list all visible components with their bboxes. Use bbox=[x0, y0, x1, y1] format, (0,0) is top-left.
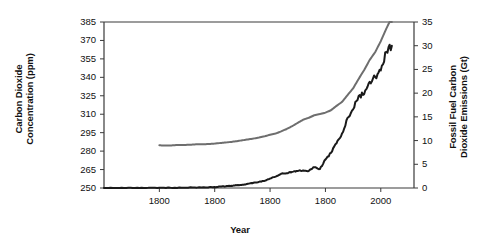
chart-figure: Carbon DioxideConcentration (ppm) Fossil… bbox=[0, 0, 488, 251]
y-tick-label-right: 10 bbox=[422, 135, 456, 146]
y-tick-label-left: 325 bbox=[62, 90, 96, 101]
axis-ticks bbox=[100, 22, 418, 192]
y-tick-label-left: 310 bbox=[62, 108, 96, 119]
plot-frame bbox=[104, 22, 414, 188]
x-tick-label: 1800 bbox=[303, 195, 347, 206]
y-tick-label-right: 0 bbox=[422, 182, 456, 193]
y-tick-label-left: 355 bbox=[62, 53, 96, 64]
x-tick-label: 2000 bbox=[359, 195, 403, 206]
data-series bbox=[104, 22, 392, 188]
y-tick-label-right: 30 bbox=[422, 40, 456, 51]
y-tick-label-right: 20 bbox=[422, 87, 456, 98]
y-tick-label-left: 265 bbox=[62, 164, 96, 175]
y-tick-label-left: 340 bbox=[62, 71, 96, 82]
co2-concentration-line bbox=[159, 22, 391, 145]
y-tick-label-right: 5 bbox=[422, 158, 456, 169]
y-tick-label-right: 35 bbox=[422, 16, 456, 27]
y-tick-label-left: 385 bbox=[62, 16, 96, 27]
y-tick-label-left: 280 bbox=[62, 145, 96, 156]
y-tick-label-left: 250 bbox=[62, 182, 96, 193]
x-tick-label: 1800 bbox=[137, 195, 181, 206]
x-tick-label: 1800 bbox=[248, 195, 292, 206]
y-tick-label-left: 370 bbox=[62, 34, 96, 45]
emissions-line bbox=[104, 45, 392, 188]
y-tick-label-right: 25 bbox=[422, 63, 456, 74]
y-tick-label-left: 295 bbox=[62, 127, 96, 138]
x-tick-label: 1800 bbox=[193, 195, 237, 206]
y-tick-label-right: 15 bbox=[422, 111, 456, 122]
